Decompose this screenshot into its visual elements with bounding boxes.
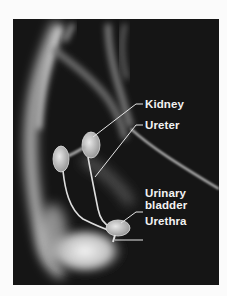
right-kidney (82, 132, 100, 158)
abdomen-contour (131, 129, 219, 189)
anatomy-figure: Kidney Ureter Urinary bladder Urethra (13, 19, 219, 285)
label-ureter: Ureter (145, 119, 179, 131)
torso-illustration (13, 19, 219, 285)
left-kidney (53, 146, 69, 172)
label-urinary: Urinary (145, 187, 186, 199)
label-bladder: bladder (145, 199, 187, 211)
label-urethra: Urethra (145, 215, 187, 227)
label-kidney: Kidney (145, 98, 184, 110)
urinary-bladder (106, 220, 130, 236)
